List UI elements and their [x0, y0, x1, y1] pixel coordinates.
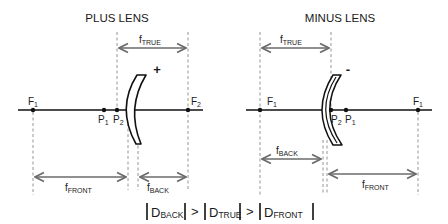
- plus-f1-label: F1: [28, 96, 38, 108]
- plus-sign: +: [153, 62, 161, 77]
- plus-f2-label: F2: [191, 96, 201, 108]
- minus-f1-right-label: F1: [413, 96, 423, 108]
- minus-p2-label: P2: [331, 114, 342, 126]
- plus-lens-dashed-guides: [33, 32, 188, 195]
- d-front-term: DFRONT: [264, 205, 303, 220]
- minus-ffront-label: fFRONT: [362, 179, 390, 191]
- minus-lens-diagram: MINUS LENS - F1 P2 P1 F1 fTRUE fB: [246, 12, 432, 195]
- d-true-term: DTRUE: [209, 205, 242, 220]
- minus-lens-title: MINUS LENS: [305, 12, 376, 24]
- plus-p1-label: P1: [98, 114, 109, 126]
- lens-diagram: PLUS LENS + F1 P1 P2 F2 fTRUE fFRONT: [0, 0, 448, 224]
- gt-operator-2: >: [246, 204, 254, 219]
- minus-ftrue-label: fTRUE: [280, 34, 302, 46]
- gt-operator-1: >: [191, 204, 199, 219]
- plus-p2-label: P2: [113, 114, 124, 126]
- plus-fback-label: fBACK: [147, 182, 169, 194]
- minus-sign: -: [346, 62, 350, 77]
- plus-ffront-label: fFRONT: [65, 182, 93, 194]
- minus-f1-left-label: F1: [267, 96, 277, 108]
- plus-ftrue-label: fTRUE: [139, 34, 161, 46]
- minus-fback-label: fBACK: [276, 145, 298, 157]
- d-back-term: DBACK: [151, 205, 184, 220]
- plus-lens-diagram: PLUS LENS + F1 P1 P2 F2 fTRUE fFRONT: [18, 12, 203, 195]
- dioptric-power-inequality: DBACK > DTRUE > DFRONT: [147, 203, 313, 220]
- minus-p1-label: P1: [345, 114, 356, 126]
- minus-lens-dashed-guides: [260, 32, 418, 195]
- plus-lens-title: PLUS LENS: [85, 12, 149, 24]
